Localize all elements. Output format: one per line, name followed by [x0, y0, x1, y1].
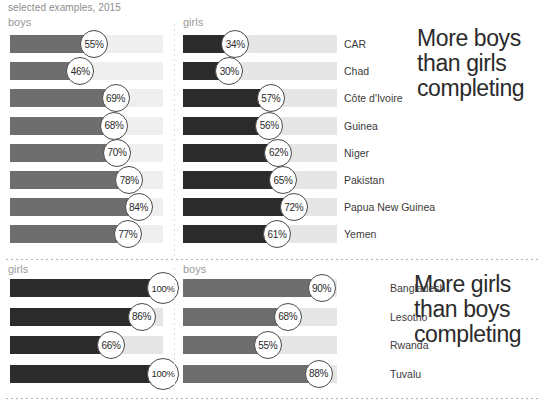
bar-track-boys: 68% [183, 308, 337, 326]
bar-fill-girls [10, 336, 111, 354]
value-bubble-boys: 68% [274, 303, 302, 331]
bar-track-boys: 84% [10, 198, 163, 216]
bar-fill-boys [183, 279, 322, 297]
country-label: Guinea [344, 117, 378, 135]
bar-fill-girls [183, 171, 283, 189]
value-bubble-girls: 57% [257, 84, 285, 112]
bar-fill-boys [10, 117, 114, 135]
value-bubble-girls: 66% [97, 331, 125, 359]
value-bubble-girls: 34% [221, 30, 249, 58]
bar-track-boys: 88% [183, 365, 337, 383]
country-label: CAR [344, 35, 366, 53]
country-label: Papua New Guinea [344, 198, 435, 216]
bar-fill-boys [10, 171, 129, 189]
value-bubble-boys: 88% [305, 360, 333, 388]
bar-track-boys: 90% [183, 279, 337, 297]
infographic-canvas: selected examples, 2015 boys girls More … [0, 0, 547, 408]
country-label: Côte d'Ivoire [344, 89, 403, 107]
section-more-girls: girls boys More girls than boys completi… [0, 263, 547, 395]
value-bubble-boys: 70% [103, 139, 131, 167]
divider-bottom [6, 398, 541, 399]
bar-fill-boys [183, 365, 319, 383]
table-row: 77%61%Yemen [0, 225, 547, 243]
divider-middle [6, 259, 541, 260]
value-bubble-boys: 69% [102, 84, 130, 112]
column-header-left-top: boys [8, 16, 31, 28]
value-bubble-boys: 84% [125, 193, 153, 221]
country-label: Pakistan [344, 171, 384, 189]
value-bubble-boys: 77% [114, 220, 142, 248]
value-bubble-girls: 72% [280, 193, 308, 221]
value-bubble-boys: 78% [115, 166, 143, 194]
value-bubble-boys: 68% [100, 112, 128, 140]
bar-fill-boys [10, 144, 117, 162]
value-bubble-girls: 30% [215, 57, 243, 85]
table-row: 55%34%CAR [0, 35, 547, 53]
table-row: 84%72%Papua New Guinea [0, 198, 547, 216]
value-bubble-boys: 46% [66, 57, 94, 85]
bar-track-boys: 69% [10, 89, 163, 107]
bar-fill-boys [10, 198, 139, 216]
bar-track-girls: 56% [183, 117, 337, 135]
country-label: Niger [344, 144, 369, 162]
column-header-right-bottom: boys [183, 263, 206, 275]
bar-track-boys: 46% [10, 62, 163, 80]
value-bubble-girls: 62% [264, 139, 292, 167]
bar-track-girls: 86% [10, 308, 163, 326]
bar-track-girls: 34% [183, 35, 337, 53]
country-label: Lesotho [390, 308, 427, 326]
bar-track-girls: 62% [183, 144, 337, 162]
bar-fill-girls [10, 279, 163, 297]
column-header-right-top: girls [183, 16, 203, 28]
bar-fill-boys [10, 225, 128, 243]
bar-track-girls: 100% [10, 365, 163, 383]
table-row: 68%56%Guinea [0, 117, 547, 135]
bar-track-girls: 65% [183, 171, 337, 189]
value-bubble-girls: 56% [255, 112, 283, 140]
caption: selected examples, 2015 [8, 2, 121, 13]
table-row: 70%62%Niger [0, 144, 547, 162]
bar-fill-boys [10, 89, 116, 107]
value-bubble-girls: 65% [269, 166, 297, 194]
bar-fill-boys [183, 308, 288, 326]
value-bubble-girls: 61% [263, 220, 291, 248]
column-header-left-bottom: girls [8, 263, 28, 275]
country-label: Chad [344, 62, 369, 80]
country-label: Tuvalu [390, 365, 421, 383]
bar-track-boys: 77% [10, 225, 163, 243]
section-more-boys: boys girls More boys than girls completi… [0, 16, 547, 256]
bar-fill-girls [183, 198, 294, 216]
country-label: Bangladesh [390, 279, 445, 297]
bar-track-girls: 100% [10, 279, 163, 297]
bar-track-girls: 30% [183, 62, 337, 80]
bar-track-boys: 78% [10, 171, 163, 189]
table-row: 78%65%Pakistan [0, 171, 547, 189]
value-bubble-boys: 55% [254, 331, 282, 359]
bar-track-boys: 68% [10, 117, 163, 135]
table-row: 46%30%Chad [0, 62, 547, 80]
table-row: 86%68%Lesotho [0, 308, 547, 326]
bar-track-girls: 72% [183, 198, 337, 216]
bar-track-boys: 55% [183, 336, 337, 354]
bar-track-boys: 55% [10, 35, 163, 53]
table-row: 100%90%Bangladesh [0, 279, 547, 297]
panel-separator-top [174, 24, 175, 256]
panel-separator-bottom [174, 268, 175, 394]
value-bubble-boys: 90% [308, 274, 336, 302]
bar-track-boys: 70% [10, 144, 163, 162]
table-row: 69%57%Côte d'Ivoire [0, 89, 547, 107]
bar-track-girls: 66% [10, 336, 163, 354]
bar-fill-girls [10, 365, 163, 383]
bar-track-girls: 61% [183, 225, 337, 243]
table-row: 100%88%Tuvalu [0, 365, 547, 383]
country-label: Rwanda [390, 336, 429, 354]
bar-fill-girls [10, 308, 142, 326]
value-bubble-girls: 86% [128, 303, 156, 331]
country-label: Yemen [344, 225, 376, 243]
bar-track-girls: 57% [183, 89, 337, 107]
table-row: 66%55%Rwanda [0, 336, 547, 354]
value-bubble-boys: 55% [80, 30, 108, 58]
